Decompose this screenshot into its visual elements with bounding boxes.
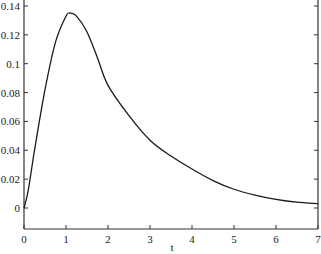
x-tick-label: 3 xyxy=(147,233,153,245)
y-tick-label: 0.12 xyxy=(1,29,20,41)
x-tick-label: 6 xyxy=(273,233,279,245)
y-tick-label: 0.02 xyxy=(1,173,20,185)
x-tick-label: 5 xyxy=(231,233,237,245)
data-line xyxy=(24,13,318,208)
x-tick-label: 0 xyxy=(21,233,27,245)
chart-container: 00.020.040.060.080.10.120.14 01234567 t xyxy=(0,0,321,254)
y-tick-label: 0.06 xyxy=(1,115,21,127)
line-chart: 00.020.040.060.080.10.120.14 01234567 t xyxy=(0,0,321,254)
y-tick-label: 0.04 xyxy=(1,144,21,156)
y-tick-label: 0.1 xyxy=(6,58,20,70)
y-axis-ticks: 00.020.040.060.080.10.120.14 xyxy=(1,0,318,214)
x-axis-label: t xyxy=(170,241,173,253)
x-tick-label: 7 xyxy=(315,233,321,245)
y-tick-label: 0 xyxy=(15,202,21,214)
axes xyxy=(24,0,318,229)
y-tick-label: 0.08 xyxy=(1,87,21,99)
x-tick-label: 1 xyxy=(63,233,69,245)
x-tick-label: 2 xyxy=(105,233,111,245)
y-tick-label: 0.14 xyxy=(1,0,21,12)
x-tick-label: 4 xyxy=(189,233,195,245)
